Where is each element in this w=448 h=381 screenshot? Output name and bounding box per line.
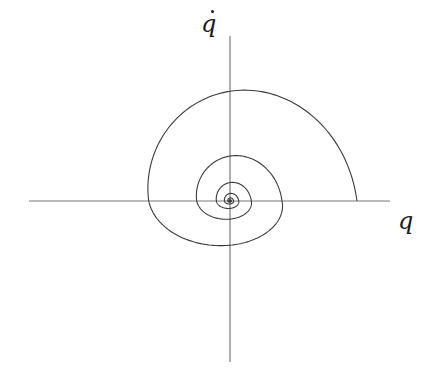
x-axis-label-text: q: [398, 207, 413, 235]
x-axis-label: q: [398, 209, 413, 233]
time-derivative-dot: [211, 10, 214, 13]
phase-portrait: [0, 0, 448, 381]
spiral-trajectory: [148, 90, 357, 246]
y-axis-label: q: [201, 12, 216, 36]
y-axis-label-text: q: [201, 10, 216, 38]
